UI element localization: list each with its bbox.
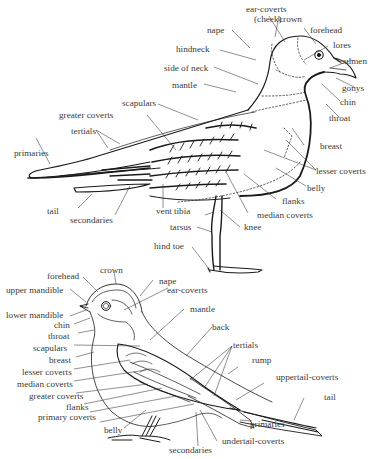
label-cheek: (cheek) [254, 14, 282, 24]
label-ear-coverts: ear-coverts [167, 285, 208, 295]
label-scapulars: scapulars [122, 98, 156, 108]
label-flanks: flanks [282, 196, 304, 206]
label-forehead: forehead [47, 271, 79, 281]
label-primaries: primaries [250, 419, 285, 429]
label-lesser-coverts: lesser coverts [22, 367, 72, 377]
label-throat: throat [48, 331, 69, 341]
label-upper-mandible: upper mandible [6, 285, 63, 295]
label-lores: lores [333, 40, 351, 50]
label-hind-toe: hind toe [154, 241, 184, 251]
label-breast: breast [320, 141, 342, 151]
label-ear-coverts: ear-coverts [246, 4, 287, 14]
label-belly: belly [307, 183, 325, 193]
label-tibia: tibia [174, 206, 190, 216]
label-culmen: culmen [340, 56, 367, 66]
label-lesser-coverts: lesser coverts [316, 166, 366, 176]
label-gonys: gonys [342, 83, 364, 93]
label-crown: crown [100, 265, 123, 275]
label-secondaries: secondaries [169, 445, 212, 455]
label-tertials: tertials [71, 126, 96, 136]
label-back: back [212, 322, 229, 332]
label-vent: vent [156, 206, 172, 216]
label-flanks: flanks [66, 402, 88, 412]
label-scapulars: scapulars [33, 343, 67, 353]
label-tail: tail [324, 392, 336, 402]
label-tertials: tertials [233, 340, 258, 350]
label-primary-coverts: primary coverts [38, 412, 96, 422]
label-rump: rump [252, 355, 271, 365]
label-tarsus: tarsus [170, 222, 191, 232]
label-knee: knee [244, 222, 261, 232]
label-mantle: mantle [172, 80, 197, 90]
gull-leader-lines [36, 16, 354, 270]
label-side-of-neck: side of neck [164, 63, 208, 73]
label-uppertail-coverts: uppertail-coverts [276, 372, 338, 382]
label-tail: tail [47, 206, 59, 216]
label-median-coverts: median coverts [257, 210, 313, 220]
label-greater-coverts: greater coverts [59, 110, 113, 120]
label-primaries: primaries [14, 148, 49, 158]
label-mantle: mantle [190, 304, 215, 314]
label-median-coverts: median coverts [17, 379, 73, 389]
label-chin: chin [54, 320, 70, 330]
label-chin: chin [340, 97, 356, 107]
label-nape: nape [207, 25, 224, 35]
label-forehead: forehead [310, 25, 342, 35]
label-undertail-coverts: undertail-coverts [222, 436, 284, 446]
label-belly: belly [104, 425, 122, 435]
label-secondaries: secondaries [70, 215, 113, 225]
label-greater-coverts: greater coverts [29, 391, 83, 401]
label-lower-mandible: lower mandible [6, 310, 63, 320]
label-throat: throat [329, 113, 350, 123]
label-breast: breast [49, 355, 71, 365]
label-crown: crown [279, 14, 302, 24]
label-hindneck: hindneck [176, 44, 210, 54]
